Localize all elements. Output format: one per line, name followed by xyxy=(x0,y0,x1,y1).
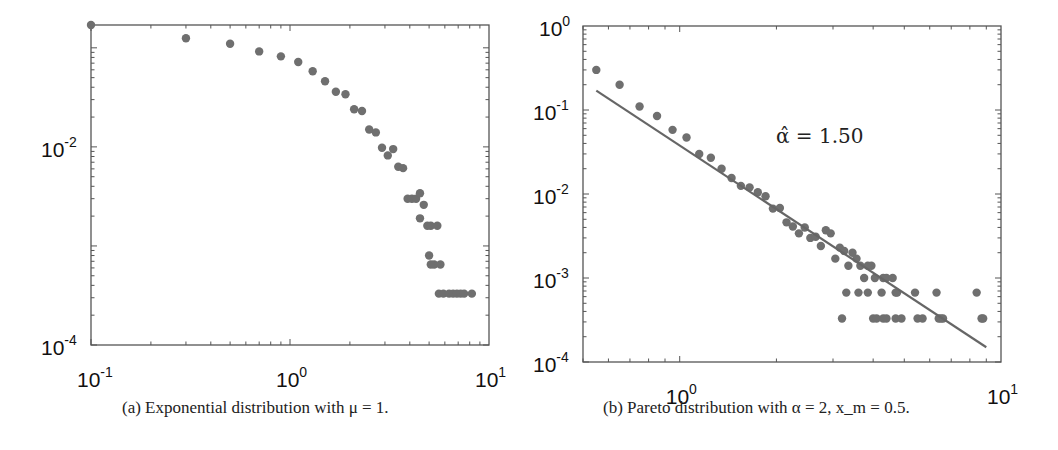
data-point xyxy=(854,288,862,296)
data-point xyxy=(897,314,905,322)
data-point xyxy=(932,288,940,296)
data-point xyxy=(420,201,428,209)
data-point xyxy=(416,214,424,222)
alpha-hat-annotation: α̂ = 1.50 xyxy=(776,124,864,148)
data-point xyxy=(653,112,661,120)
data-point xyxy=(844,262,852,270)
y-tick-label: 10-2 xyxy=(533,181,569,208)
data-point xyxy=(864,288,872,296)
plot-b-pareto: 10010110010-110-210-310-4α̂ = 1.50 xyxy=(533,13,1018,408)
data-point xyxy=(888,274,896,282)
data-point xyxy=(226,40,234,48)
data-point xyxy=(350,105,358,113)
x-tick-label: 101 xyxy=(475,364,506,391)
data-point xyxy=(308,67,316,75)
data-point xyxy=(842,288,850,296)
y-tick-label: 10-1 xyxy=(533,97,569,124)
data-point xyxy=(460,289,468,297)
data-point xyxy=(979,314,987,322)
data-point xyxy=(341,90,349,98)
data-point xyxy=(911,288,919,296)
data-point xyxy=(789,222,797,230)
data-point xyxy=(707,154,715,162)
figure-canvas: 10-110010110-210-4 10010110010-110-210-3… xyxy=(0,0,1058,450)
data-point xyxy=(255,47,263,55)
plot-frame xyxy=(91,25,489,345)
caption-a: (a) Exponential distribution with μ = 1. xyxy=(122,398,389,418)
data-point xyxy=(882,314,890,322)
data-point xyxy=(668,126,676,134)
data-point xyxy=(682,133,690,141)
data-point xyxy=(831,254,839,262)
data-point xyxy=(592,66,600,74)
y-tick-label: 10-3 xyxy=(533,265,569,292)
data-point xyxy=(321,77,329,85)
data-point xyxy=(87,21,95,29)
data-point xyxy=(294,58,302,66)
data-point xyxy=(817,242,825,250)
y-tick-label: 10-4 xyxy=(533,349,569,376)
plot-frame xyxy=(583,26,1001,362)
data-point xyxy=(635,102,643,110)
data-point xyxy=(416,189,424,197)
x-tick-label: 101 xyxy=(987,381,1018,408)
data-point xyxy=(378,144,386,152)
data-point xyxy=(358,107,366,115)
data-point xyxy=(433,222,441,230)
y-tick-label: 100 xyxy=(539,13,570,40)
data-point xyxy=(860,274,868,282)
data-point xyxy=(468,289,476,297)
data-point xyxy=(425,251,433,259)
data-point xyxy=(826,229,834,237)
x-tick-label: 100 xyxy=(276,364,307,391)
y-tick-label: 10-4 xyxy=(41,332,77,359)
y-tick-label: 10-2 xyxy=(41,134,77,161)
data-point xyxy=(427,260,435,268)
data-point xyxy=(399,164,407,172)
caption-b: (b) Pareto distribution with α = 2, x_m … xyxy=(603,398,910,418)
data-point xyxy=(277,52,285,60)
data-point xyxy=(372,128,380,136)
data-point xyxy=(332,88,340,96)
data-point xyxy=(972,288,980,296)
data-point xyxy=(838,314,846,322)
data-point xyxy=(182,34,190,42)
data-point xyxy=(615,81,623,89)
data-point xyxy=(389,145,397,153)
data-point xyxy=(436,260,444,268)
plot-a-exponential: 10-110010110-210-4 xyxy=(41,21,506,391)
data-point xyxy=(877,288,885,296)
data-point xyxy=(918,314,926,322)
x-tick-label: 10-1 xyxy=(77,364,113,391)
